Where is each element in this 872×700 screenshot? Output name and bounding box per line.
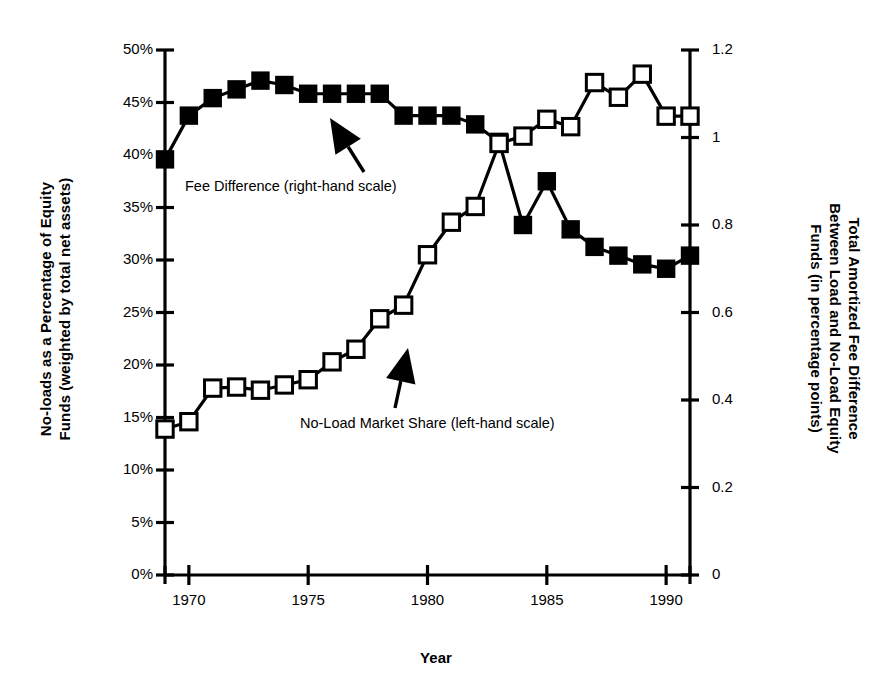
data-point-marker (276, 77, 292, 93)
data-point-marker (181, 414, 197, 430)
data-point-marker (586, 239, 602, 255)
data-point-marker (276, 377, 292, 393)
axes-group (156, 50, 699, 585)
plot-canvas (0, 0, 872, 700)
chart-figure: No-loads as a Percentage of Equity Funds… (0, 0, 872, 700)
data-point-marker (419, 247, 435, 263)
annotation-arrows (330, 118, 415, 408)
data-point-marker (419, 107, 435, 123)
data-point-marker (372, 311, 388, 327)
data-point-marker (395, 107, 411, 123)
data-point-marker (205, 380, 221, 396)
data-point-marker (610, 247, 626, 263)
data-point-marker (467, 198, 483, 214)
data-point-marker (395, 297, 411, 313)
data-point-marker (467, 116, 483, 132)
data-point-marker (658, 261, 674, 277)
data-point-marker (515, 128, 531, 144)
data-point-marker (372, 86, 388, 102)
data-point-marker (562, 118, 578, 134)
data-point-marker (610, 89, 626, 105)
data-point-marker (562, 221, 578, 237)
data-point-marker (539, 111, 555, 127)
data-point-marker (348, 341, 364, 357)
data-point-marker (324, 86, 340, 102)
data-point-marker (586, 74, 602, 90)
series-group (157, 66, 698, 437)
data-point-marker (252, 72, 268, 88)
data-point-marker (658, 108, 674, 124)
data-point-marker (300, 372, 316, 388)
data-point-marker (348, 86, 364, 102)
data-point-marker (324, 354, 340, 370)
data-point-marker (300, 86, 316, 102)
data-point-marker (228, 81, 244, 97)
data-point-marker (634, 66, 650, 82)
data-point-marker (682, 108, 698, 124)
data-point-marker (515, 217, 531, 233)
data-point-marker (157, 421, 173, 437)
data-point-marker (634, 256, 650, 272)
data-point-marker (539, 173, 555, 189)
data-point-marker (157, 151, 173, 167)
data-point-marker (205, 90, 221, 106)
data-point-marker (252, 382, 268, 398)
data-point-marker (682, 247, 698, 263)
data-point-marker (491, 135, 507, 151)
data-point-marker (443, 107, 459, 123)
data-point-marker (228, 379, 244, 395)
data-point-marker (181, 107, 197, 123)
arrow-no-load-market-share (386, 348, 415, 408)
data-point-marker (443, 214, 459, 230)
arrow-fee-difference (330, 118, 364, 172)
